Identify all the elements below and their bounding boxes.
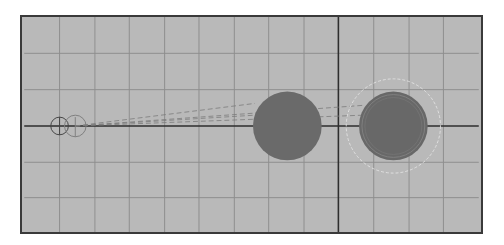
3d-viewport[interactable]	[20, 15, 483, 234]
sphere-2[interactable]	[346, 79, 440, 173]
sphere-1[interactable]	[253, 92, 322, 161]
viewport-canvas[interactable]	[22, 17, 481, 232]
